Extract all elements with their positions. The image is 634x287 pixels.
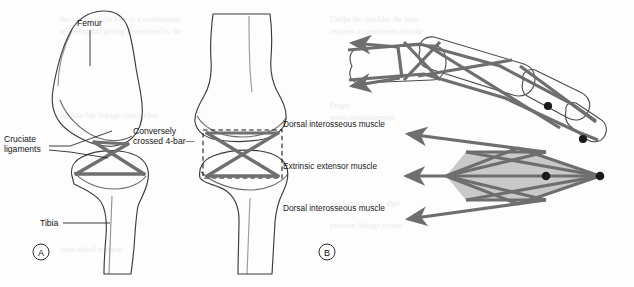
label-extrinsic-extensor: Extrinsic extensor muscle [283,161,377,171]
femur-shaft-ridge-right [249,16,252,92]
femur-bone-extended [195,14,286,141]
extensor-tendon-network [348,42,598,140]
svg-text:the four-bar linkage concep: the four-bar linkage concept has [60,111,158,120]
svg-text:requires a constrained arti: requires a constrained articula- [330,27,424,36]
panel-a-marker: A [33,244,49,260]
arrow-dorsal-interosseous-top [408,134,546,152]
label-dorsal-interosseous-top: Dorsal interosseous muscle [283,119,385,129]
schematic-joint-dot-inner [542,172,551,181]
svg-text:Unlike the shoulder, the k: Unlike the shoulder, the knee [330,15,420,24]
svg-text:Finger: Finger [330,101,350,110]
arrow-dorsal-interosseous-bottom [408,200,546,219]
conversely-crossed-label-line2: crossed 4-bar— [133,136,195,146]
cruciate-ligaments-label-line1: Cruciate [4,134,36,144]
svg-text:intercalated segment: intercalated segment [60,245,124,254]
tendon-transverse-link [398,47,402,78]
panel-b-marker: B [319,244,335,260]
finger-joint-dot-proximal [544,102,552,110]
finger-diagram [348,37,606,143]
conversely-crossed-label-line1: Conversely [133,126,177,136]
tendon-cross-middle-b [418,60,512,76]
cruciate-ligaments-label-line2: ligaments [4,144,41,154]
knee-flexed-view: Femur Cruciate ligaments Tibia [4,11,148,274]
tibia-bone-extended [200,150,288,274]
figure-svg: the motion of the knee is a combination … [0,0,634,287]
four-bar-linkage-flexed [76,142,144,174]
panel-a-letter: A [38,248,44,258]
panel-a: Femur Cruciate ligaments Tibia [4,11,288,274]
schematic-joint-dot-apex [596,172,605,181]
svg-text:extensor linkage system: extensor linkage system [330,221,403,230]
label-dorsal-interosseous-bottom: Dorsal interosseous muscle [283,203,385,213]
knee-extended-view: Conversely crossed 4-bar— [133,14,288,274]
femur-condyle-contour [60,100,132,141]
tibia-shaft-ridge-right [247,198,250,274]
svg-text:of rolling and gliding determ: of rolling and gliding determined by the [60,27,182,36]
linkage-schematic [406,134,604,219]
finger-arrow-upper [352,43,398,47]
finger-joint-dot-distal [579,135,587,143]
tibia-shaft-ridge [109,196,112,274]
figure-container: the motion of the knee is a combination … [0,0,634,287]
dorsal-tendon-band-lower [349,74,598,140]
panel-b-letter: B [324,248,330,258]
tendon-distal-oblique [520,66,596,122]
femur-label: Femur [77,18,102,28]
femoral-link-bar [94,142,128,144]
tibia-label: Tibia [40,218,59,228]
